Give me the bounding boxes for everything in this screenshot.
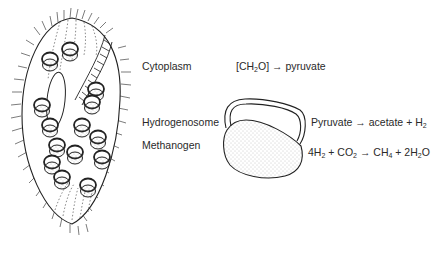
- reaction-cytoplasm: [CH2O] → pyruvate: [236, 60, 326, 72]
- reaction-text: O: [422, 146, 430, 158]
- reaction-text: + CO: [325, 146, 353, 158]
- reaction-hydrogenosome: Pyruvate → acetate + H2: [311, 116, 427, 128]
- label-methanogen: Methanogen: [142, 139, 200, 151]
- ciliate-organism: [11, 8, 131, 235]
- hydrogenosome-methanogen-detail: [224, 99, 306, 178]
- reaction-methanogen: 4H2 + CO2 → CH4 + 2H2O: [308, 146, 430, 158]
- reaction-text: 4H: [308, 146, 321, 158]
- reaction-text: [CH: [236, 60, 254, 72]
- reaction-text: O] → pyruvate: [258, 60, 326, 72]
- reaction-text: + 2H: [392, 146, 417, 158]
- reaction-text: Pyruvate → acetate + H: [311, 116, 423, 128]
- subscript: 2: [423, 122, 427, 129]
- label-cytoplasm: Cytoplasm: [142, 60, 192, 72]
- reaction-text: → CH: [357, 146, 389, 158]
- label-hydrogenosome: Hydrogenosome: [142, 116, 219, 128]
